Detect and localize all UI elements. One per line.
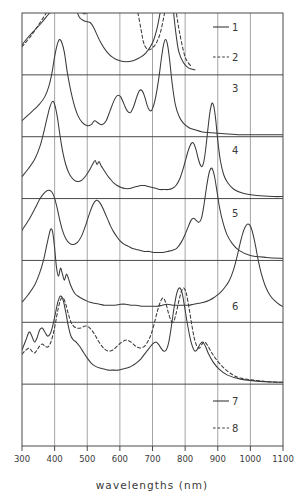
spectra-svg: 30040050060070080090010001100 34561278 w… bbox=[0, 0, 305, 496]
panel-label-6: 6 bbox=[232, 301, 238, 312]
x-tick-label-300: 300 bbox=[14, 454, 30, 464]
x-tick-label-1100: 1100 bbox=[272, 454, 294, 464]
curve-1 bbox=[22, 0, 195, 70]
axis-title: wavelengths (nm) bbox=[96, 479, 209, 491]
x-tick-label-1000: 1000 bbox=[240, 454, 262, 464]
legend-label-7: 7 bbox=[232, 396, 238, 407]
x-tick-label-400: 400 bbox=[47, 454, 63, 464]
panel-label-5: 5 bbox=[232, 208, 238, 219]
x-tick-label-900: 900 bbox=[210, 454, 226, 464]
x-tick-label-700: 700 bbox=[144, 454, 160, 464]
panel-label-4: 4 bbox=[232, 145, 238, 156]
axis-tick-labels: 30040050060070080090010001100 bbox=[14, 454, 294, 464]
legend: 34561278 bbox=[213, 22, 238, 434]
legend-label-1: 1 bbox=[232, 22, 238, 33]
absorption-spectra-figure: 30040050060070080090010001100 34561278 w… bbox=[0, 0, 305, 496]
legend-label-8: 8 bbox=[232, 423, 238, 434]
panel-label-3: 3 bbox=[232, 83, 238, 94]
x-tick-label-600: 600 bbox=[112, 454, 128, 464]
axis-ticks bbox=[22, 446, 283, 451]
x-tick-label-500: 500 bbox=[79, 454, 95, 464]
legend-label-2: 2 bbox=[232, 52, 238, 63]
x-tick-label-800: 800 bbox=[177, 454, 193, 464]
curve-2 bbox=[22, 0, 192, 67]
panel-1 bbox=[22, 0, 195, 70]
